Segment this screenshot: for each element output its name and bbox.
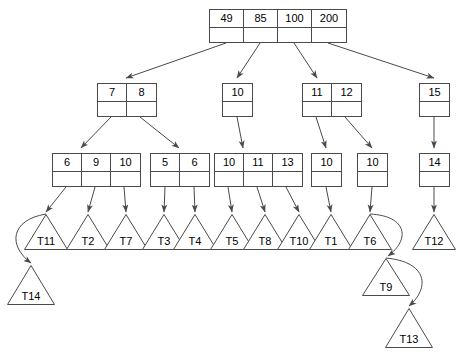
edge-n-10-11-13-to-T5: [228, 187, 232, 212]
node-pointer-cell: [151, 172, 180, 186]
node-key-cell: 10: [312, 154, 341, 171]
node-key-cell: 12: [332, 84, 361, 101]
node-keys-row: 10: [223, 84, 252, 101]
btree-node-n-10-c: 10: [357, 153, 388, 187]
node-pointers-row: [358, 171, 387, 186]
node-key-cell: 85: [244, 10, 278, 27]
subtree-t11: T11: [24, 214, 68, 250]
edge-n-11-12-to-n-10-c: [345, 117, 372, 148]
node-key-cell: 10: [215, 154, 244, 171]
node-key-cell: 49: [210, 10, 244, 27]
subtree-t1: T1: [309, 214, 353, 250]
edge-n-10-c-to-T6: [370, 187, 372, 212]
node-pointer-cell: [273, 172, 302, 186]
subtree-label: T1: [309, 236, 353, 247]
edge-n-5-6-to-T4: [194, 187, 195, 212]
node-key-cell: 6: [53, 154, 82, 171]
edge-n-7-8-to-n-5-6: [140, 117, 179, 148]
node-keys-row: 78: [98, 84, 156, 101]
node-pointers-row: [215, 171, 302, 186]
node-pointers-row: [420, 101, 449, 116]
node-key-cell: 5: [151, 154, 180, 171]
node-pointers-row: [98, 101, 156, 116]
node-key-cell: 13: [273, 154, 302, 171]
edge-n-10-11-13-to-T8: [257, 187, 265, 212]
node-keys-row: 15: [420, 84, 449, 101]
node-pointers-row: [151, 171, 209, 186]
node-pointer-cell: [82, 172, 111, 186]
edge-n-10-b-to-T1: [326, 187, 331, 212]
node-key-cell: 10: [223, 84, 252, 101]
edge-root-to-n-15: [328, 43, 434, 78]
btree-node-n-5-6: 56: [150, 153, 210, 187]
edge-n-10-11-13-to-T10: [286, 187, 299, 212]
node-key-cell: 10: [111, 154, 140, 171]
edge-n-10-a-to-n-10-11-13: [237, 117, 243, 148]
subtree-t6: T6: [348, 214, 392, 250]
subtree-t12: T12: [412, 214, 456, 250]
node-pointer-cell: [420, 172, 449, 186]
btree-node-n-7-8: 78: [97, 83, 157, 117]
node-key-cell: 100: [278, 10, 312, 27]
node-pointer-cell: [332, 102, 361, 116]
btree-node-n-11-12: 1112: [302, 83, 362, 117]
edge-n-6-9-10-to-T2: [88, 187, 95, 212]
node-pointers-row: [303, 101, 361, 116]
edge-n-6-9-10-to-T7: [124, 187, 126, 212]
edge-n-11-12-to-n-10-b: [316, 117, 326, 148]
edge-n-6-9-10-to-T11: [46, 187, 66, 212]
node-keys-row: 1112: [303, 84, 361, 101]
node-pointer-cell: [127, 102, 156, 116]
subtree-label: T11: [24, 236, 68, 247]
node-key-cell: 15: [420, 84, 449, 101]
node-pointers-row: [223, 101, 252, 116]
node-keys-row: 56: [151, 154, 209, 171]
node-pointer-cell: [180, 172, 209, 186]
node-key-cell: 9: [82, 154, 111, 171]
subtree-t13: T13: [385, 308, 433, 348]
node-keys-row: 4985100200: [210, 10, 346, 27]
subtree-label: T9: [362, 282, 410, 293]
btree-diagram: 49851002007810111215691056101113101014 T…: [0, 0, 465, 362]
node-key-cell: 11: [303, 84, 332, 101]
node-key-cell: 8: [127, 84, 156, 101]
node-keys-row: 10: [358, 154, 387, 171]
subtree-t9: T9: [362, 258, 410, 296]
node-key-cell: 14: [420, 154, 449, 171]
node-keys-row: 14: [420, 154, 449, 171]
node-pointer-cell: [303, 102, 332, 116]
btree-node-n-14: 14: [419, 153, 450, 187]
node-pointer-cell: [223, 102, 252, 116]
node-pointer-cell: [215, 172, 244, 186]
btree-node-n-10-a: 10: [222, 83, 253, 117]
node-keys-row: 10: [312, 154, 341, 171]
node-pointers-row: [53, 171, 140, 186]
subtree-label: T12: [412, 236, 456, 247]
btree-node-root: 4985100200: [209, 9, 347, 43]
edge-root-to-n-7-8: [126, 43, 226, 78]
node-pointer-cell: [312, 172, 341, 186]
subtree-label: T6: [348, 236, 392, 247]
node-key-cell: 200: [312, 10, 346, 27]
node-key-cell: 7: [98, 84, 127, 101]
edge-root-to-n-10-a: [237, 43, 260, 78]
node-key-cell: 10: [358, 154, 387, 171]
node-keys-row: 6910: [53, 154, 140, 171]
node-keys-row: 101113: [215, 154, 302, 171]
node-pointer-cell: [358, 172, 387, 186]
btree-node-n-10-11-13: 101113: [214, 153, 303, 187]
edge-n-5-6-to-T3: [164, 187, 165, 212]
edge-n-7-8-to-n-6-9-10: [81, 117, 111, 148]
node-pointer-cell: [312, 28, 346, 42]
node-pointers-row: [312, 171, 341, 186]
node-pointers-row: [210, 27, 346, 42]
btree-node-n-6-9-10: 6910: [52, 153, 141, 187]
node-pointer-cell: [278, 28, 312, 42]
btree-node-n-15: 15: [419, 83, 450, 117]
node-pointer-cell: [420, 102, 449, 116]
node-pointer-cell: [244, 172, 273, 186]
edge-root-to-n-11-12: [294, 43, 317, 78]
btree-node-n-10-b: 10: [311, 153, 342, 187]
subtree-label: T13: [385, 334, 433, 345]
subtree-t14: T14: [7, 265, 55, 305]
